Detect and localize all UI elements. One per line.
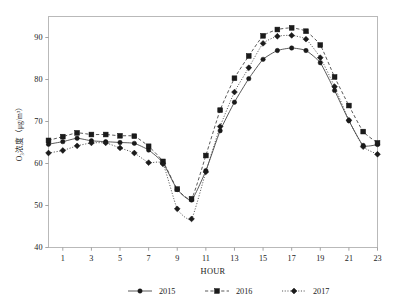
data-point-marker <box>46 150 52 156</box>
series-path <box>49 48 378 200</box>
y-axis-title: O₃浓度（μg/m³） <box>14 103 24 161</box>
data-point-marker <box>346 117 352 123</box>
data-point-marker <box>74 143 80 149</box>
data-point-marker <box>89 132 94 137</box>
legend-label: 2016 <box>236 287 252 296</box>
x-tick-label: 9 <box>175 254 179 263</box>
data-point-marker <box>346 103 351 108</box>
x-tick-label: 11 <box>202 254 210 263</box>
y-tick-label: 40 <box>34 243 42 252</box>
x-tick-label: 21 <box>345 254 353 263</box>
series-2016 <box>46 25 380 201</box>
data-point-marker <box>232 89 238 95</box>
x-tick-label: 23 <box>373 254 381 263</box>
data-point-marker <box>289 33 295 39</box>
data-point-marker <box>289 46 293 50</box>
chart-legend: 201520162017 <box>128 287 329 296</box>
data-point-marker <box>289 25 294 30</box>
data-point-marker <box>246 54 251 59</box>
data-point-marker <box>75 136 79 140</box>
legend-label: 2015 <box>159 287 175 296</box>
data-point-marker <box>103 132 108 137</box>
line-chart: 405060708090 1357911131517192123 O₃浓度（μg… <box>0 0 395 308</box>
data-point-marker <box>138 289 142 293</box>
data-point-marker <box>275 48 279 52</box>
data-point-marker <box>146 160 152 166</box>
data-point-marker <box>318 43 323 48</box>
data-point-marker <box>203 153 208 158</box>
data-point-marker <box>174 206 180 212</box>
data-point-marker <box>375 151 381 157</box>
data-point-marker <box>189 216 195 222</box>
legend-item-2017[interactable]: 2017 <box>282 287 329 296</box>
data-point-marker <box>304 29 309 34</box>
data-point-marker <box>232 76 237 81</box>
data-point-marker <box>274 33 280 39</box>
x-tick-label: 1 <box>61 254 65 263</box>
data-point-marker <box>260 40 266 46</box>
x-tick-label: 3 <box>89 254 93 263</box>
data-point-marker <box>232 100 236 104</box>
series-path <box>49 28 378 199</box>
y-tick-label: 70 <box>34 117 42 126</box>
data-point-marker <box>146 144 151 149</box>
series-2015 <box>46 46 379 202</box>
y-tick-label: 90 <box>34 33 42 42</box>
x-tick-label: 15 <box>259 254 267 263</box>
data-point-marker <box>61 139 65 143</box>
x-axis: 1357911131517192123 <box>61 248 382 263</box>
data-point-marker <box>304 48 308 52</box>
data-point-marker <box>246 65 252 71</box>
data-point-marker <box>332 84 338 90</box>
data-point-marker <box>291 288 297 294</box>
data-point-marker <box>117 145 123 151</box>
legend-item-2015[interactable]: 2015 <box>128 287 175 296</box>
data-point-marker <box>218 108 223 113</box>
data-point-marker <box>118 133 123 138</box>
chart-figure: 405060708090 1357911131517192123 O₃浓度（μg… <box>0 0 395 308</box>
data-point-marker <box>60 134 65 139</box>
data-point-marker <box>118 140 122 144</box>
data-point-marker <box>46 138 51 143</box>
data-point-marker <box>332 75 337 80</box>
data-point-marker <box>131 150 137 156</box>
y-tick-label: 50 <box>34 201 42 210</box>
x-tick-label: 5 <box>118 254 122 263</box>
x-tick-label: 7 <box>147 254 151 263</box>
data-point-marker <box>361 129 366 134</box>
legend-item-2016[interactable]: 2016 <box>205 287 252 296</box>
data-point-marker <box>303 36 309 42</box>
data-point-marker <box>247 76 251 80</box>
data-point-marker <box>75 130 80 135</box>
data-point-marker <box>217 124 223 130</box>
y-tick-label: 80 <box>34 75 42 84</box>
data-point-marker <box>261 57 265 61</box>
y-tick-label: 60 <box>34 159 42 168</box>
data-point-marker <box>132 134 137 139</box>
data-point-marker <box>275 27 280 32</box>
x-tick-label: 13 <box>230 254 238 263</box>
x-axis-title: HOUR <box>201 267 226 276</box>
data-point-marker <box>317 55 323 61</box>
data-point-marker <box>375 141 380 146</box>
data-point-marker <box>175 187 180 192</box>
data-point-marker <box>60 148 66 154</box>
data-point-marker <box>261 33 266 38</box>
data-point-marker <box>215 289 220 294</box>
x-tick-label: 17 <box>288 254 296 263</box>
data-point-marker <box>189 196 194 201</box>
series-container <box>46 25 381 221</box>
series-2017 <box>46 33 381 222</box>
legend-label: 2017 <box>313 287 329 296</box>
data-point-marker <box>318 61 322 65</box>
data-point-marker <box>132 141 136 145</box>
x-tick-label: 19 <box>316 254 324 263</box>
